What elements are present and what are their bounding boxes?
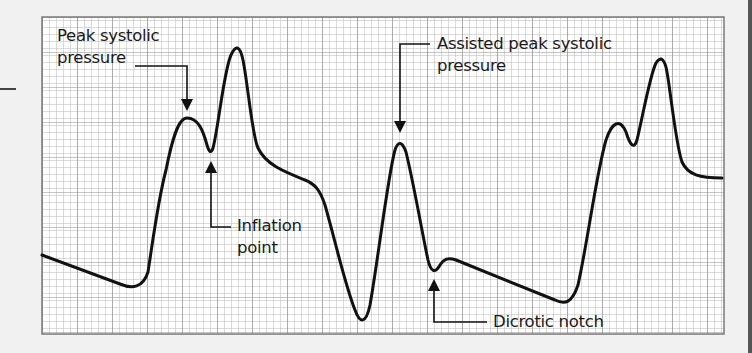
- inflation-point-label-line1: Inflation: [237, 215, 302, 237]
- inflation-point-label: Inflation point: [237, 215, 302, 259]
- page-edge-bar: [748, 0, 752, 353]
- margin-dash: [0, 88, 16, 90]
- peak-systolic-label-line1: Peak systolic: [57, 25, 159, 47]
- dicrotic-notch-label: Dicrotic notch: [493, 311, 604, 333]
- assisted-peak-label-line1: Assisted peak systolic: [437, 33, 612, 55]
- dicrotic-notch-label-line1: Dicrotic notch: [493, 311, 604, 333]
- assisted-peak-label: Assisted peak systolic pressure: [437, 33, 612, 77]
- peak-systolic-label-line2: pressure: [57, 47, 159, 69]
- diagram-canvas: Peak systolic pressure Inflation point A…: [0, 0, 752, 353]
- assisted-peak-label-line2: pressure: [437, 55, 612, 77]
- inflation-point-label-line2: point: [237, 237, 302, 259]
- peak-systolic-label: Peak systolic pressure: [57, 25, 159, 69]
